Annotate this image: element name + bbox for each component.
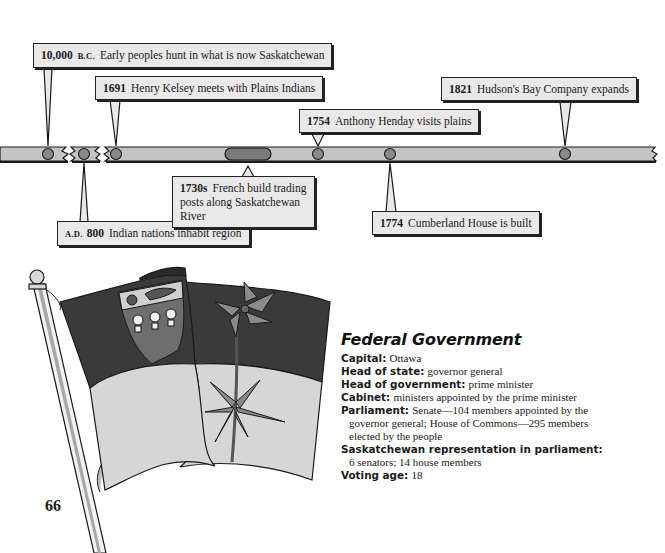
callout-10000bc: 10,000B.C.Early peoples hunt in what is … bbox=[33, 43, 332, 68]
event-era: B.C. bbox=[78, 51, 95, 61]
fact-label: Voting age: bbox=[341, 469, 408, 481]
callout-1691: 1691Henry Kelsey meets with Plains India… bbox=[95, 76, 323, 100]
event-year: 10,000 bbox=[41, 49, 73, 61]
pointer-ad800 bbox=[80, 163, 88, 222]
marker-1754 bbox=[313, 149, 324, 160]
pointer-1754 bbox=[312, 134, 324, 146]
fact-head-of-state: Head of state: governor general bbox=[341, 365, 661, 378]
event-year: 800 bbox=[87, 227, 104, 239]
fact-parliament: Parliament: Senate—104 members appointed… bbox=[341, 404, 661, 417]
fact-value: Ottawa bbox=[390, 352, 422, 364]
event-text: Hudson's Bay Company expands bbox=[477, 83, 629, 95]
pointer-1774 bbox=[386, 163, 396, 212]
fact-value: ministers appointed by the prime ministe… bbox=[393, 391, 577, 403]
fact-sask-representation: Saskatchewan representation in parliamen… bbox=[341, 443, 661, 456]
fact-value: governor general bbox=[428, 365, 503, 377]
fact-value: 18 bbox=[411, 469, 422, 481]
pointer-1821 bbox=[560, 102, 571, 146]
marker-1821 bbox=[560, 149, 571, 160]
fact-continuation: governor general; House of Commons—295 m… bbox=[341, 417, 661, 430]
event-year: 1774 bbox=[380, 217, 403, 229]
callout-1730s: 1730sFrench build trading posts along Sa… bbox=[172, 176, 315, 228]
pointer-10000bc bbox=[44, 68, 52, 146]
fact-cabinet: Cabinet: ministers appointed by the prim… bbox=[341, 391, 661, 404]
event-text: Cumberland House is built bbox=[408, 217, 532, 229]
event-text: Indian nations inhabit region bbox=[109, 227, 242, 239]
marker-1730s bbox=[225, 148, 271, 160]
event-year: 1691 bbox=[103, 82, 126, 94]
fact-label: Head of government: bbox=[341, 378, 465, 390]
timeline-bar bbox=[0, 147, 657, 162]
event-text-line1: French build trading bbox=[212, 182, 306, 194]
fact-label: Capital: bbox=[341, 352, 386, 364]
event-text: Anthony Henday visits plains bbox=[335, 115, 471, 127]
fact-value: prime minister bbox=[469, 378, 533, 390]
callout-1774: 1774Cumberland House is built bbox=[372, 211, 540, 235]
callout-1754: 1754Anthony Henday visits plains bbox=[299, 109, 479, 133]
fact-label: Head of state: bbox=[341, 365, 424, 377]
flag-hoist-bottom bbox=[90, 364, 215, 490]
fact-continuation: 6 senators; 14 house members bbox=[341, 456, 661, 469]
marker-10000bc bbox=[43, 149, 54, 160]
fact-voting-age: Voting age: 18 bbox=[341, 469, 661, 482]
pole-finial bbox=[30, 270, 44, 284]
marker-1691 bbox=[111, 149, 122, 160]
fact-value: Senate—104 members appointed by the bbox=[412, 404, 588, 416]
wheat-sheaf-icon bbox=[150, 312, 160, 322]
fact-label: Saskatchewan representation in parliamen… bbox=[341, 443, 603, 455]
fact-label: Cabinet: bbox=[341, 391, 390, 403]
fact-continuation: elected by the people bbox=[341, 430, 661, 443]
page-number: 66 bbox=[45, 497, 61, 515]
event-year: 1730s bbox=[180, 182, 207, 194]
event-text: Henry Kelsey meets with Plains Indians bbox=[131, 82, 315, 94]
event-text: Early peoples hunt in what is now Saskat… bbox=[100, 49, 325, 61]
event-text-line2: posts along Saskatchewan River bbox=[180, 195, 307, 223]
section-title: Federal Government bbox=[341, 330, 661, 349]
marker-ad800 bbox=[79, 149, 90, 160]
pointer-1691 bbox=[110, 100, 120, 146]
wheat-sheaf-icon bbox=[166, 309, 176, 319]
fact-label: Parliament: bbox=[341, 404, 409, 416]
event-year: 1754 bbox=[307, 115, 330, 127]
federal-government-panel: Federal Government Capital: Ottawa Head … bbox=[341, 330, 661, 482]
fact-head-of-government: Head of government: prime minister bbox=[341, 378, 661, 391]
event-year: 1821 bbox=[449, 83, 472, 95]
fact-capital: Capital: Ottawa bbox=[341, 352, 661, 365]
event-era: A.D. bbox=[65, 229, 83, 239]
wheat-sheaf-icon bbox=[133, 315, 143, 325]
callout-1821: 1821Hudson's Bay Company expands bbox=[441, 77, 637, 101]
marker-1774 bbox=[385, 149, 396, 160]
